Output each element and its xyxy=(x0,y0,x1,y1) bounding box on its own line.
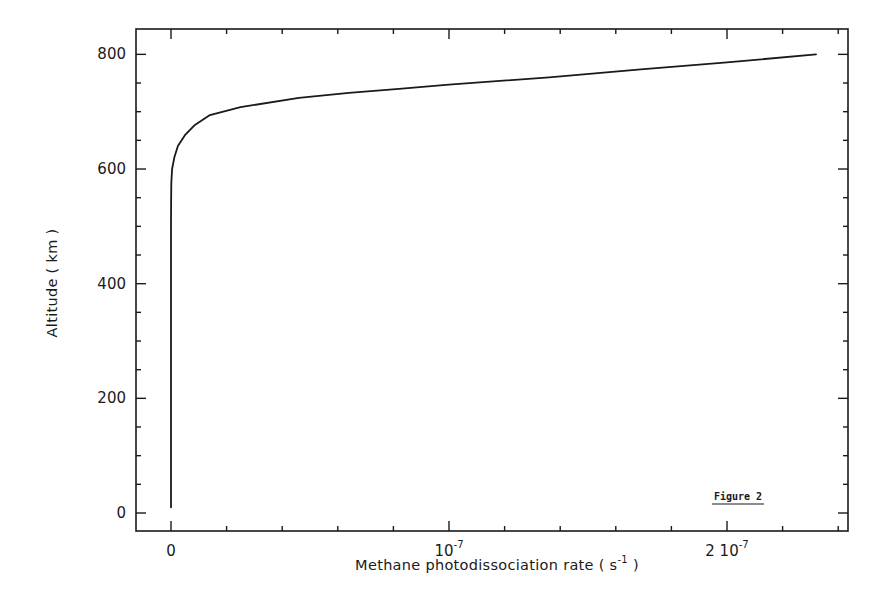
x-tick-label: 2 10-7 xyxy=(705,539,748,560)
figure-annotation: Figure 2 xyxy=(712,491,764,504)
figure-label: Figure 2 xyxy=(714,491,762,502)
y-tick-label: 0 xyxy=(116,504,126,522)
x-axis-ticks xyxy=(171,29,838,531)
x-tick-label: 0 xyxy=(166,542,176,560)
x-axis-title: Methane photodissociation rate ( s-1 ) xyxy=(355,554,639,573)
x-axis-title-tail: ) xyxy=(628,557,639,573)
plot-frame xyxy=(136,29,848,531)
x-axis-title-main: Methane photodissociation rate ( s xyxy=(355,557,617,573)
y-axis-title: Altitude ( km ) xyxy=(44,229,60,338)
x-axis-title-sup: -1 xyxy=(617,554,628,565)
y-axis-ticks xyxy=(136,54,848,513)
y-tick-label: 800 xyxy=(97,45,126,63)
plot-border xyxy=(136,29,848,531)
y-tick-label: 200 xyxy=(97,389,126,407)
y-tick-label: 400 xyxy=(97,275,126,293)
y-tick-label: 600 xyxy=(97,160,126,178)
data-line xyxy=(171,54,816,507)
y-axis-tick-labels: 0200400600800 xyxy=(97,45,126,522)
chart: 010-72 10-7 0200400600800 Methane photod… xyxy=(0,0,892,605)
